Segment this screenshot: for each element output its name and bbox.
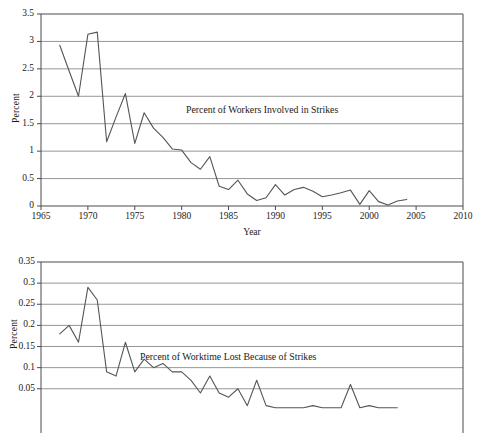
- chart-panel-workers-involved: Percent 00.511.522.533.5 196519701975198…: [0, 0, 481, 240]
- x-tick-label: 2000: [349, 211, 389, 221]
- y-tick-label: 0.35: [1, 256, 35, 266]
- y-tick-label: 0: [4, 200, 34, 210]
- chart-annotation-top: Percent of Workers Involved in Strikes: [186, 104, 338, 115]
- x-tick-label: 1995: [302, 211, 342, 221]
- y-tick-label: 3: [4, 35, 34, 45]
- chart-annotation-bottom: Percent of Worktime Lost Because of Stri…: [140, 351, 316, 362]
- chart-panel-worktime-lost: Percent 0.050.10.150.20.250.30.35 Percen…: [0, 240, 481, 433]
- y-tick-label: 0.1: [1, 362, 35, 372]
- x-axis-title: Year: [212, 227, 292, 237]
- x-tick-label: 1975: [115, 211, 155, 221]
- plot-area-top: [0, 0, 481, 240]
- x-tick-label: 2005: [396, 211, 436, 221]
- x-tick-label: 2010: [443, 211, 481, 221]
- x-tick-label: 1970: [68, 211, 108, 221]
- y-tick-label: 0.25: [1, 298, 35, 308]
- x-tick-label: 1990: [255, 211, 295, 221]
- x-tick-label: 1965: [21, 211, 61, 221]
- y-tick-label: 1: [4, 145, 34, 155]
- y-tick-label: 0.15: [1, 341, 35, 351]
- y-tick-label: 0.05: [1, 383, 35, 393]
- y-tick-label: 0.2: [1, 319, 35, 329]
- plot-area-bottom: [0, 240, 481, 433]
- y-tick-label: 0.3: [1, 277, 35, 287]
- y-tick-label: 3.5: [4, 8, 34, 18]
- x-tick-label: 1985: [209, 211, 249, 221]
- y-tick-label: 0.5: [4, 173, 34, 183]
- x-tick-label: 1980: [162, 211, 202, 221]
- y-tick-label: 1.5: [4, 118, 34, 128]
- y-tick-label: 2: [4, 90, 34, 100]
- y-tick-label: 2.5: [4, 63, 34, 73]
